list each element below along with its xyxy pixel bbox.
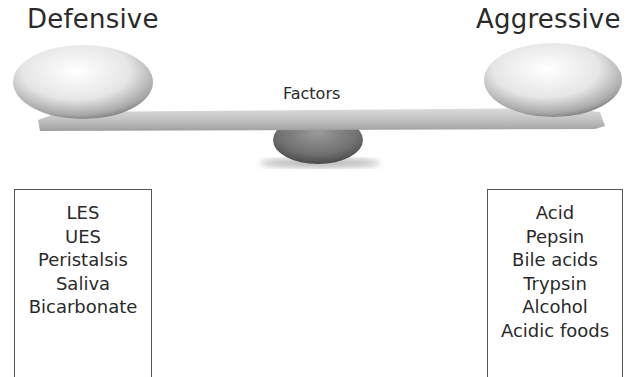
defensive-factor: Saliva (15, 272, 151, 296)
defensive-factors-box: LES UES Peristalsis Saliva Bicarbonate (14, 189, 152, 377)
aggressive-factor: Acidic foods (488, 319, 622, 343)
aggressive-factor: Alcohol (488, 295, 622, 319)
aggressive-factor: Bile acids (488, 248, 622, 272)
factors-label: Factors (283, 84, 340, 103)
defensive-factor: Peristalsis (15, 248, 151, 272)
right-weight-egg (484, 43, 622, 117)
defensive-factor: UES (15, 225, 151, 249)
defensive-factor: Bicarbonate (15, 295, 151, 319)
aggressive-heading: Aggressive (476, 4, 621, 34)
aggressive-factor: Pepsin (488, 225, 622, 249)
defensive-heading: Defensive (27, 4, 159, 34)
aggressive-factors-box: Acid Pepsin Bile acids Trypsin Alcohol A… (487, 189, 623, 377)
aggressive-factor: Trypsin (488, 272, 622, 296)
defensive-factor: LES (15, 201, 151, 225)
left-weight-egg (13, 45, 153, 119)
aggressive-factor: Acid (488, 201, 622, 225)
